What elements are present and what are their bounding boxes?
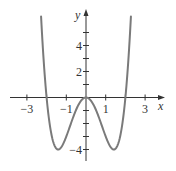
x-tick-label: −3 [21, 102, 34, 116]
function-graph: −3−11342−4 x y [0, 0, 176, 171]
x-axis-label: x [157, 99, 164, 113]
y-axis-label: y [74, 8, 81, 22]
y-tick-label: −4 [69, 143, 82, 157]
y-tick-label: 2 [76, 65, 82, 79]
x-tick-label: 1 [103, 102, 109, 116]
x-tick-label: −1 [60, 102, 73, 116]
y-axis-arrow-icon [84, 9, 89, 16]
x-tick-label: 3 [142, 102, 148, 116]
y-tick-label: 4 [76, 39, 82, 53]
